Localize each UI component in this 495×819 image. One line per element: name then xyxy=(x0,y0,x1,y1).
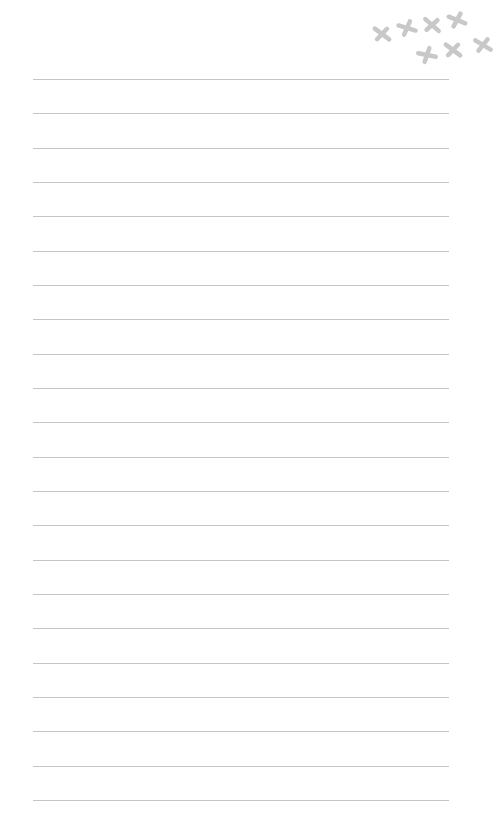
x-mark-icon xyxy=(398,21,416,36)
lined-paper xyxy=(0,0,495,819)
ruled-line xyxy=(33,251,449,252)
x-mark-icon xyxy=(423,17,442,33)
ruled-line xyxy=(33,663,449,664)
ruled-line xyxy=(33,182,449,183)
x-mark-icon xyxy=(373,27,391,42)
ruled-line xyxy=(33,525,449,526)
ruled-line xyxy=(33,697,449,698)
x-mark-icon xyxy=(444,43,462,58)
ruled-line xyxy=(33,731,449,732)
ruled-line xyxy=(33,491,449,492)
ruled-line xyxy=(33,388,449,389)
x-mark-icon xyxy=(418,47,437,63)
x-mark-icon xyxy=(475,38,492,51)
ruled-line xyxy=(33,148,449,149)
ruled-line xyxy=(33,766,449,767)
ruled-line xyxy=(33,594,449,595)
ruled-line xyxy=(33,285,449,286)
ruled-line xyxy=(33,319,449,320)
ruled-line xyxy=(33,216,449,217)
ruled-line xyxy=(33,560,449,561)
ruled-line xyxy=(33,422,449,423)
ruled-line xyxy=(33,457,449,458)
decorative-x-marks xyxy=(0,0,495,80)
x-mark-icon xyxy=(449,13,466,26)
ruled-line xyxy=(33,800,449,801)
ruled-line xyxy=(33,628,449,629)
ruled-line xyxy=(33,113,449,114)
ruled-line xyxy=(33,354,449,355)
